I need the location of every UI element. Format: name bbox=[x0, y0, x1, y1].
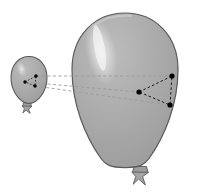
large-triangle-point-a bbox=[136, 89, 141, 94]
small-triangle-point-c bbox=[33, 84, 36, 87]
small-knot-tie bbox=[22, 106, 32, 113]
large-triangle-point-b bbox=[169, 73, 174, 78]
small-balloon-knot bbox=[22, 103, 32, 114]
figure-canvas bbox=[0, 0, 208, 194]
small-triangle-point-a bbox=[23, 80, 26, 83]
large-triangle-point-c bbox=[167, 102, 172, 107]
balloon-correspondence-figure: A small grey balloon on the left and a l… bbox=[0, 0, 208, 194]
small-triangle-point-b bbox=[34, 74, 37, 77]
small-balloon bbox=[11, 57, 47, 114]
large-balloon-knot bbox=[132, 167, 149, 186]
large-knot-tie bbox=[132, 172, 149, 185]
